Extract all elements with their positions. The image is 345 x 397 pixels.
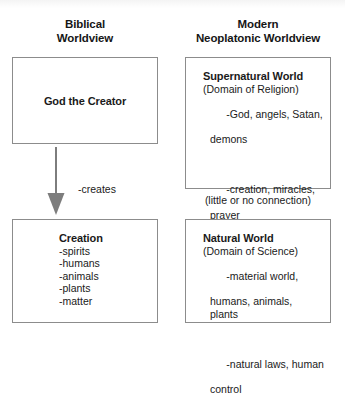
box-creation-title: Creation — [59, 232, 151, 245]
column-heading-biblical: Biblical Worldview — [12, 18, 158, 45]
box-creation-bullet-2: -animals — [59, 270, 151, 283]
box-creation-bullet-1: -humans — [59, 257, 151, 270]
column-heading-biblical-line1: Biblical — [12, 18, 158, 32]
column-heading-neoplatonic-line2: Neoplatonic Worldview — [179, 32, 337, 46]
box-natural-world-bullet-1-first: -natural laws, human — [226, 358, 323, 370]
box-natural-world-title: Natural World — [203, 232, 324, 245]
box-creation-bullet-3: -plants — [59, 282, 151, 295]
box-supernatural-world-content: Supernatural World (Domain of Religion) … — [186, 58, 330, 188]
column-heading-biblical-line2: Worldview — [12, 32, 158, 46]
connection-note: (little or no connection) — [185, 194, 331, 207]
scan-edge-artifact — [0, 0, 345, 8]
box-god-the-creator-label: God the Creator — [13, 58, 157, 143]
box-natural-world-bullet-0: -material world, humans, animals, plants — [203, 257, 324, 345]
column-heading-neoplatonic-line1: Modern — [179, 18, 337, 32]
box-supernatural-world-bullet-0: -God, angels, Satan, demons — [203, 95, 324, 171]
box-natural-world-bullet-1: -natural laws, human control — [203, 345, 324, 397]
box-supernatural-world: Supernatural World (Domain of Religion) … — [185, 57, 331, 189]
box-natural-world-subtitle: (Domain of Science) — [203, 245, 324, 258]
down-arrow-icon — [46, 147, 68, 217]
column-heading-neoplatonic: Modern Neoplatonic Worldview — [179, 18, 337, 45]
box-god-the-creator: God the Creator — [12, 57, 158, 144]
box-creation: Creation -spirits -humans -animals -plan… — [12, 219, 158, 323]
box-supernatural-world-bullet-0-first: -God, angels, Satan, — [226, 108, 322, 120]
box-natural-world-bullet-0-first: -material world, — [226, 270, 298, 282]
box-natural-world-bullet-1-cont: control — [203, 383, 324, 396]
box-creation-content: Creation -spirits -humans -animals -plan… — [13, 220, 157, 322]
box-supernatural-world-bullet-0-cont: demons — [203, 133, 324, 146]
box-natural-world-content: Natural World (Domain of Science) -mater… — [186, 220, 330, 322]
box-natural-world-bullet-0-cont: humans, animals, plants — [203, 295, 324, 320]
arrow-annotation-creates: -creates — [78, 183, 120, 196]
box-supernatural-world-title: Supernatural World — [203, 70, 324, 83]
box-creation-bullet-0: -spirits — [59, 245, 151, 258]
box-creation-bullet-4: -matter — [59, 295, 151, 308]
box-supernatural-world-subtitle: (Domain of Religion) — [203, 83, 324, 96]
box-natural-world: Natural World (Domain of Science) -mater… — [185, 219, 331, 323]
